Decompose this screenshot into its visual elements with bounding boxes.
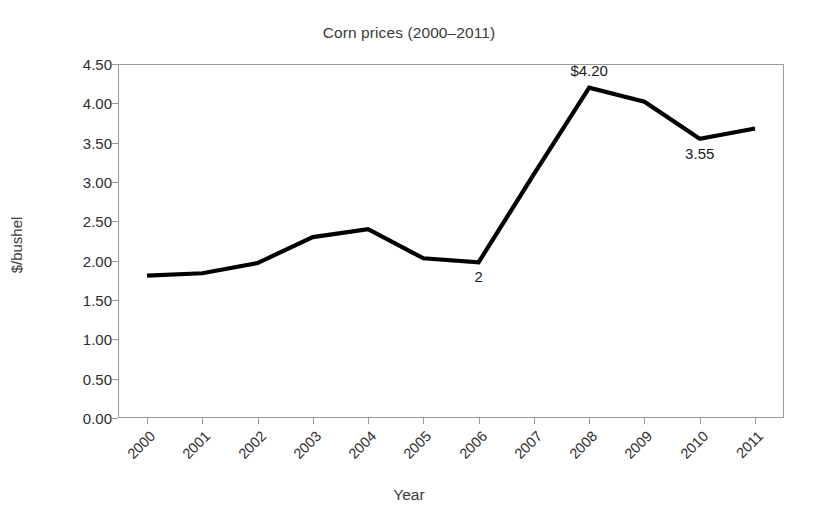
y-axis-tick-label: 3.50 [60,134,112,151]
x-axis-tick-mark [368,418,369,424]
x-axis-tick-label: 2005 [392,425,434,467]
y-axis-tick-label: 2.00 [60,252,112,269]
x-axis-tick-mark [700,418,701,424]
x-axis-tick-label-text: 2002 [226,428,268,470]
x-axis-tick-label: 2002 [226,425,268,467]
x-axis-tick-mark [479,418,480,424]
x-axis-tick-label-text: 2004 [337,428,379,470]
x-axis-tick-label: 2006 [448,425,490,467]
x-axis-tick-mark [644,418,645,424]
chart-figure: Corn prices (2000–2011) $/bushel 0.000.5… [0,0,818,522]
x-axis-tick-label-text: 2000 [116,428,158,470]
data-point-annotation: 3.55 [685,145,714,162]
x-axis-title: Year [0,486,818,504]
x-axis-tick-labels: 2000200120022003200420052006200720082009… [118,425,784,481]
data-point-annotation: $4.20 [570,62,608,79]
x-axis-tick-label: 2004 [337,425,379,467]
x-axis-tick-mark [202,418,203,424]
y-axis-title: $/bushel [8,180,25,310]
x-axis-tick-label-text: 2008 [558,428,600,470]
x-axis-tick-label: 2008 [558,425,600,467]
x-axis-tick-mark [534,418,535,424]
x-axis-tick-label-text: 2011 [724,428,766,470]
y-axis-tick-label: 1.50 [60,292,112,309]
x-axis-tick-label-text: 2001 [171,428,213,470]
x-axis-tick-label: 2000 [116,425,158,467]
x-axis-tick-mark [423,418,424,424]
x-axis-tick-label: 2011 [724,425,766,467]
y-axis-tick-label: 1.00 [60,331,112,348]
x-axis-tick-label: 2009 [613,425,655,467]
x-axis-tick-label-text: 2003 [282,428,324,470]
series-line-corn-price [118,64,784,418]
x-axis-tick-mark [755,418,756,424]
x-axis-tick-label-text: 2005 [392,428,434,470]
y-axis-tick-labels: 0.000.501.001.502.002.503.003.504.004.50 [56,64,112,418]
x-axis-tick-mark [258,418,259,424]
x-axis-tick-mark [147,418,148,424]
x-axis-tick-label-text: 2010 [669,428,711,470]
data-point-annotation: 2 [474,268,482,285]
x-axis-tick-label: 2001 [171,425,213,467]
y-axis-tick-label: 4.50 [60,56,112,73]
x-axis-tick-label-text: 2006 [448,428,490,470]
x-axis-tick-label: 2007 [503,425,545,467]
x-axis-tick-mark [313,418,314,424]
y-axis-tick-label: 3.00 [60,174,112,191]
y-axis-tick-label: 4.00 [60,95,112,112]
y-axis-tick-label: 2.50 [60,213,112,230]
y-axis-tick-label: 0.50 [60,370,112,387]
x-axis-tick-label: 2003 [282,425,324,467]
chart-title: Corn prices (2000–2011) [0,24,818,42]
x-axis-tick-label-text: 2007 [503,428,545,470]
x-axis-tick-label: 2010 [669,425,711,467]
y-axis-tick-label: 0.00 [60,410,112,427]
x-axis-tick-label-text: 2009 [613,428,655,470]
x-axis-tick-mark [589,418,590,424]
x-axis-tick-marks [118,418,784,425]
series-polyline [147,88,755,276]
